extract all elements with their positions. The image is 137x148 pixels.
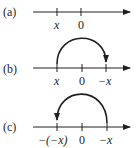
number-line-a [33, 8, 130, 16]
number-line-diagrams [0, 0, 137, 148]
number-line-b [33, 38, 130, 72]
tick-label: 0 [79, 134, 85, 146]
reflection-arc-right [57, 38, 106, 64]
tick-label: −x [99, 134, 112, 146]
part-label-c: (c) [3, 121, 16, 133]
tick-label: 0 [78, 19, 84, 31]
reflection-arc-left [57, 94, 107, 123]
part-label-b: (b) [3, 63, 17, 75]
tick-label: x [54, 75, 59, 87]
part-label-a: (a) [3, 6, 16, 18]
tick-label: −x [98, 75, 111, 87]
tick-label: −(−x) [38, 134, 68, 146]
tick-label: 0 [79, 75, 85, 87]
tick-label: x [54, 19, 59, 31]
number-line-c [33, 94, 130, 131]
